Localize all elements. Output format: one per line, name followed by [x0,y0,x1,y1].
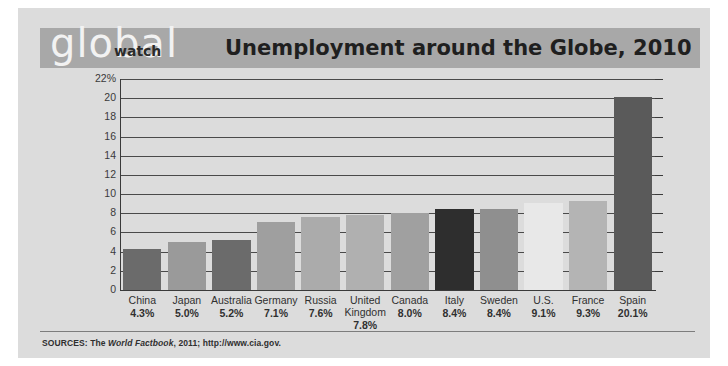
category-value: 5.0% [162,307,213,319]
category-name: Australia [206,294,257,306]
category-value: 8.4% [474,307,525,319]
category-value: 4.3% [117,307,168,319]
bar [524,203,562,290]
sources-italic-title: World Factbook [108,338,173,348]
y-axis-tick-label: 10 [82,187,116,199]
category-label: France9.3% [563,294,614,319]
y-axis-tick-label: 2 [82,264,116,276]
y-axis-tick-label: 22% [82,72,116,84]
category-label: Spain20.1% [607,294,658,319]
category-value: 7.6% [295,307,346,319]
bar [614,97,652,290]
x-axis-baseline [120,290,656,291]
y-axis-tick-label: 14 [82,149,116,161]
category-name: United Kingdom [340,294,391,318]
y-axis-tick-label: 20 [82,91,116,103]
y-axis-tick-labels: 22%20181614121086420 [78,0,116,366]
bar [301,217,339,290]
y-axis-tick-label: 6 [82,225,116,237]
bar [480,209,518,290]
category-name: Canada [385,294,436,306]
axis-tick [655,194,663,195]
category-value: 5.2% [206,307,257,319]
axis-tick [655,213,663,214]
category-name: U.S. [518,294,569,306]
sources-note: SOURCES: The World Factbook, 2011; http:… [42,338,281,348]
axis-tick [655,156,663,157]
axis-tick [655,79,663,80]
y-axis-tick-label: 8 [82,206,116,218]
category-name: China [117,294,168,306]
category-value: 7.8% [340,319,391,331]
y-axis-tick-label: 18 [82,110,116,122]
category-value: 20.1% [607,307,658,319]
bars-group [120,79,655,290]
category-label: Canada8.0% [385,294,436,319]
y-axis-tick-label: 16 [82,130,116,142]
category-value: 8.0% [385,307,436,319]
category-label: Sweden8.4% [474,294,525,319]
bar [391,213,429,290]
y-axis-tick-label: 0 [82,283,116,295]
bar [123,249,161,290]
category-label: Russia7.6% [295,294,346,319]
axis-tick [655,252,663,253]
sources-prefix: SOURCES: The [42,338,108,348]
category-name: Sweden [474,294,525,306]
category-label: Italy8.4% [429,294,480,319]
sources-divider [40,331,695,332]
axis-tick [655,175,663,176]
chart-page: global watch Unemployment around the Glo… [0,0,728,366]
axis-tick [655,117,663,118]
bar [257,222,295,290]
category-label: Japan5.0% [162,294,213,319]
category-label: U.S.9.1% [518,294,569,319]
category-name: France [563,294,614,306]
y-axis-tick-label: 12 [82,168,116,180]
category-label: United Kingdom7.8% [340,294,391,331]
bar [346,215,384,290]
category-name: Italy [429,294,480,306]
category-name: Russia [295,294,346,306]
category-value: 9.1% [518,307,569,319]
y-axis-tick-label: 4 [82,245,116,257]
bar [435,209,473,290]
category-name: Japan [162,294,213,306]
category-value: 8.4% [429,307,480,319]
sources-suffix: , 2011; http://www.cia.gov. [173,338,281,348]
axis-tick [655,98,663,99]
category-label: Germany7.1% [251,294,302,319]
category-label: Australia5.2% [206,294,257,319]
category-name: Germany [251,294,302,306]
axis-tick [655,271,663,272]
category-value: 9.3% [563,307,614,319]
bar [212,240,250,290]
bar [168,242,206,290]
category-name: Spain [607,294,658,306]
category-value: 7.1% [251,307,302,319]
category-label: China4.3% [117,294,168,319]
bar [569,201,607,290]
axis-tick [655,232,663,233]
axis-tick [655,137,663,138]
